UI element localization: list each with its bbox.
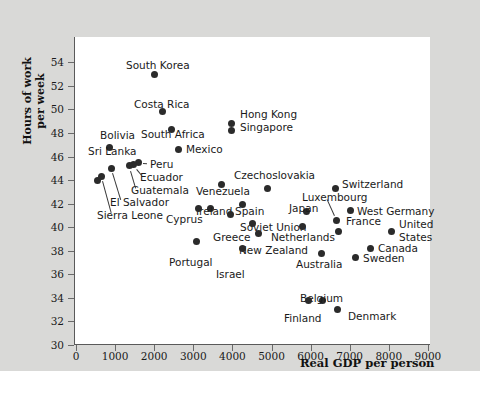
data-point [367, 245, 374, 252]
x-tick-label: 4000 [212, 350, 252, 362]
data-point [228, 127, 235, 134]
data-point [193, 238, 200, 245]
point-label: Greece [213, 232, 250, 243]
point-label: Czechoslovakia [234, 170, 315, 181]
y-tick-label: 32 [42, 315, 64, 327]
y-tick-label: 34 [42, 292, 64, 304]
x-axis-label: Real GDP per person [300, 356, 435, 370]
point-label: Sierra Leone [97, 210, 163, 221]
point-label: Sweden [363, 253, 405, 264]
y-tick-label: 46 [42, 151, 64, 163]
x-tick-label: 1000 [95, 350, 135, 362]
y-tick-label: 50 [42, 103, 64, 115]
point-label: France [346, 216, 381, 227]
y-tick-label: 42 [42, 198, 64, 210]
point-label: Costa Rica [134, 99, 190, 110]
point-label: Venezuela [196, 186, 250, 197]
point-label: United [399, 219, 434, 230]
point-label: Finland [284, 313, 322, 324]
data-point [299, 223, 306, 230]
point-label: Guatemala [131, 185, 189, 196]
point-label: Netherlands [271, 232, 335, 243]
y-tick-label: 38 [42, 245, 64, 257]
point-label: Mexico [186, 144, 223, 155]
data-point [255, 230, 262, 237]
point-label: Singapore [240, 122, 293, 133]
point-label: Denmark [348, 311, 396, 322]
data-point [332, 185, 339, 192]
y-tick-label: 44 [42, 174, 64, 186]
data-point [228, 120, 235, 127]
data-point [305, 297, 312, 304]
point-label: Japan [289, 203, 318, 214]
point-label: South Africa [141, 129, 205, 140]
plot-area [74, 37, 430, 345]
data-point [352, 254, 359, 261]
point-label: Spain [235, 206, 264, 217]
point-label: Peru [150, 159, 173, 170]
point-label: Bolivia [100, 130, 135, 141]
x-tick-label: 5000 [252, 350, 292, 362]
point-label: Ecuador [140, 172, 183, 183]
point-label: South Korea [126, 60, 190, 71]
point-label: Australia [296, 259, 342, 270]
x-tick-label: 2000 [134, 350, 174, 362]
x-tick-label: 3000 [173, 350, 213, 362]
x-tick-label: 0 [56, 350, 96, 362]
y-tick-label: 52 [42, 80, 64, 92]
data-point [333, 217, 340, 224]
data-point [175, 146, 182, 153]
y-tick-label: 48 [42, 127, 64, 139]
point-label: Luxembourg [302, 192, 367, 203]
data-point [264, 185, 271, 192]
y-tick-mark [68, 345, 74, 346]
label-leader-line [143, 163, 147, 164]
point-label: Israel [216, 269, 245, 280]
y-tick-label: 36 [42, 268, 64, 280]
point-label: New Zealand [239, 245, 308, 256]
point-label: Portugal [169, 257, 213, 268]
point-label: Hong Kong [240, 109, 297, 120]
y-tick-label: 54 [42, 56, 64, 68]
chart-figure: Hours of work per week 30323436384042444… [0, 0, 480, 371]
point-label: Switzerland [342, 179, 403, 190]
point-label: Cyprus [166, 214, 203, 225]
point-label: Sri Lanka [88, 146, 137, 157]
y-axis-label-line1: Hours of work [21, 57, 34, 145]
y-tick-label: 40 [42, 221, 64, 233]
